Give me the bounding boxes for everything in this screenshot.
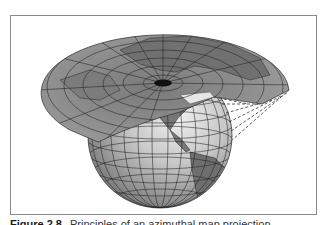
figure-caption: Figure 2.8Principles of an azimuthal map… [10,218,271,225]
pole-point [154,80,172,87]
projection-diagram [0,0,328,225]
caption-label: Figure 2.8 [10,218,62,225]
caption-text: Principles of an azimuthal map projectio… [70,218,271,225]
